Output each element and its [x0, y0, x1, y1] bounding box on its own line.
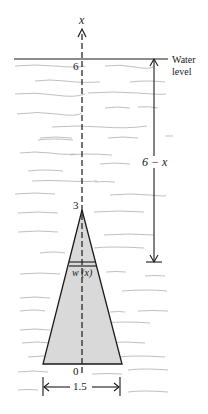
- water-level-label-line1: Water: [172, 55, 196, 65]
- water-level-label-line2: level: [172, 67, 191, 77]
- base-width-label: 1.5: [73, 381, 87, 392]
- tick-label-0: 0: [73, 366, 79, 377]
- strip-width-label: w (x): [72, 268, 92, 278]
- axis-label-x: x: [79, 14, 84, 26]
- tick-label-3: 3: [73, 200, 79, 211]
- depth-label: 6 − x: [141, 156, 168, 168]
- tick-label-6: 6: [73, 61, 79, 72]
